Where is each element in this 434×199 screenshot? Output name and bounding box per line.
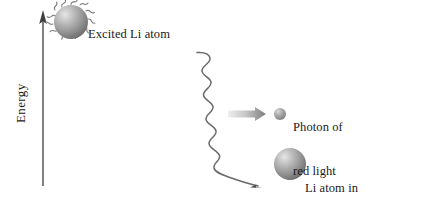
wavy-emission-arrow-icon (197, 52, 258, 186)
photon-label-line-1: Photon of (293, 120, 343, 135)
excited-atom-label: Excited Li atom (88, 27, 170, 42)
energy-level-diagram: Energy Excited Li atom Photon of red lig… (0, 0, 434, 199)
lower-label-line-1: Li atom in (305, 181, 398, 196)
excited-atom-sphere-icon (54, 5, 88, 39)
lower-energy-atom-label: Li atom in lower energy state (305, 152, 398, 199)
photon-sphere-icon (274, 108, 286, 120)
energy-axis (39, 10, 47, 186)
gradient-arrow-icon (228, 107, 266, 121)
energy-axis-label: Energy (14, 73, 29, 133)
